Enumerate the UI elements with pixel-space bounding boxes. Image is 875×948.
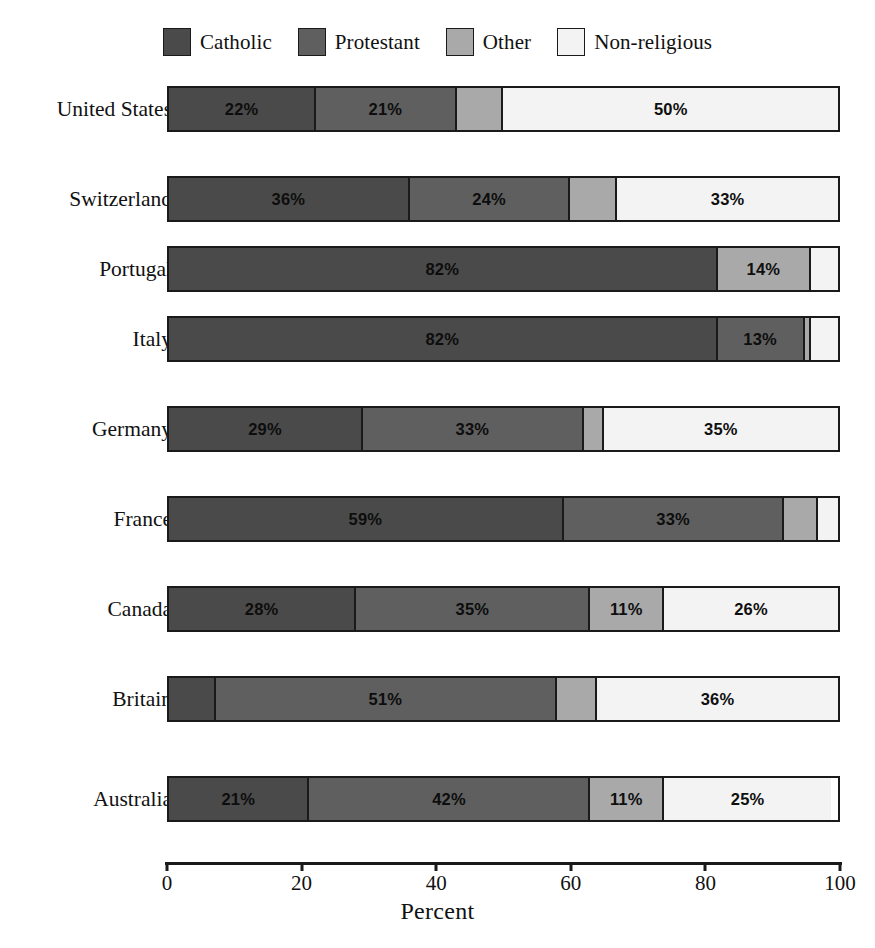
y-axis-tick-label: France <box>114 496 173 542</box>
chart-row: United States22%21%50% <box>0 86 875 132</box>
legend-swatch-icon <box>446 28 474 56</box>
bar-segment-non-religious: 36% <box>597 678 838 720</box>
legend-item-other: Other <box>446 28 531 56</box>
chart-row: Portugal82%14% <box>0 246 875 292</box>
plot-area: United States22%21%50%Switzerland36%24%3… <box>0 62 875 862</box>
x-axis-tick-label: 60 <box>560 873 581 894</box>
bar-segment-label: 82% <box>425 330 459 349</box>
x-axis-tick-label: 80 <box>695 873 716 894</box>
x-axis-tick-mark <box>704 862 707 871</box>
bar-segment-label: 33% <box>456 420 490 439</box>
bar-segment-other <box>570 178 617 220</box>
legend-item-label: Catholic <box>200 32 272 53</box>
bar-segment-label: 50% <box>654 100 688 119</box>
legend-swatch-icon <box>557 28 585 56</box>
bar-segment-label: 22% <box>225 100 259 119</box>
bar-segment-catholic: 28% <box>169 588 356 630</box>
chart-row: Italy82%13% <box>0 316 875 362</box>
bar-segment-other <box>784 498 817 540</box>
bar-segment-catholic: 36% <box>169 178 410 220</box>
bar-segment-other <box>805 318 812 360</box>
x-axis-tick-mark <box>839 862 842 871</box>
stacked-bar: 51%36% <box>167 676 840 722</box>
bar-segment-other <box>584 408 604 450</box>
bar-segment-label: 26% <box>734 600 768 619</box>
bar-segment-other: 14% <box>718 248 812 290</box>
stacked-bar: 36%24%33% <box>167 176 840 222</box>
stacked-bar: 21%42%11%25% <box>167 776 840 822</box>
x-axis-tick-label: 20 <box>291 873 312 894</box>
stacked-bar: 59%33% <box>167 496 840 542</box>
bar-segment-label: 59% <box>349 510 383 529</box>
bar-segment-catholic: 22% <box>169 88 316 130</box>
bar-segment-protestant: 13% <box>718 318 805 360</box>
bar-segment-protestant: 21% <box>316 88 456 130</box>
bar-segment-protestant: 24% <box>410 178 571 220</box>
bar-segment-label: 11% <box>610 790 643 809</box>
bar-segment-non-religious: 26% <box>664 588 838 630</box>
stacked-bar: 82%13% <box>167 316 840 362</box>
y-axis-tick-label: Britain <box>112 676 172 722</box>
bar-segment-catholic: 29% <box>169 408 363 450</box>
bar-segment-label: 36% <box>272 190 306 209</box>
y-axis-tick-label: Germany <box>92 406 172 452</box>
bar-segment-catholic: 21% <box>169 778 309 820</box>
bar-segment-protestant: 33% <box>363 408 584 450</box>
bar-segment-label: 25% <box>731 790 765 809</box>
y-axis-tick-label: Australia <box>93 776 172 822</box>
y-axis-tick-label: United States <box>57 86 172 132</box>
bar-segment-other: 11% <box>590 778 664 820</box>
bar-segment-label: 35% <box>704 420 738 439</box>
y-axis-tick-label: Portugal <box>99 246 172 292</box>
chart-row: Canada28%35%11%26% <box>0 586 875 632</box>
legend-item-label: Other <box>483 32 531 53</box>
bar-segment-catholic <box>169 678 216 720</box>
x-axis-tick-label: 40 <box>426 873 447 894</box>
legend-swatch-icon <box>298 28 326 56</box>
legend-swatch-icon <box>163 28 191 56</box>
chart-row: Australia21%42%11%25% <box>0 776 875 822</box>
x-axis-tick-mark <box>569 862 572 871</box>
legend-item-protestant: Protestant <box>298 28 420 56</box>
bar-segment-non-religious <box>811 318 838 360</box>
x-axis-tick-label: 100 <box>824 873 856 894</box>
bar-segment-protestant: 42% <box>309 778 590 820</box>
stacked-bar: 22%21%50% <box>167 86 840 132</box>
x-axis-title: Percent <box>0 898 875 925</box>
bar-segment-catholic: 82% <box>169 248 718 290</box>
legend-item-label: Non-religious <box>594 32 712 53</box>
bar-segment-catholic: 59% <box>169 498 564 540</box>
x-axis-line <box>165 862 842 865</box>
bar-segment-non-religious: 33% <box>617 178 838 220</box>
y-axis-tick-label: Canada <box>108 586 172 632</box>
bar-segment-other <box>457 88 504 130</box>
chart-row: Germany29%33%35% <box>0 406 875 452</box>
bar-segment-label: 51% <box>369 690 403 709</box>
bar-segment-catholic: 82% <box>169 318 718 360</box>
stacked-bar: 28%35%11%26% <box>167 586 840 632</box>
bar-segment-label: 13% <box>743 330 777 349</box>
legend-item-label: Protestant <box>335 32 420 53</box>
legend-item-non-religious: Non-religious <box>557 28 712 56</box>
bar-segment-label: 33% <box>656 510 690 529</box>
chart-legend: CatholicProtestantOtherNon-religious <box>0 28 875 56</box>
bar-segment-label: 11% <box>610 600 643 619</box>
y-axis-tick-label: Switzerland <box>69 176 172 222</box>
bar-segment-non-religious <box>818 498 838 540</box>
stacked-bar: 82%14% <box>167 246 840 292</box>
x-axis-tick-mark <box>435 862 438 871</box>
chart-row: Switzerland36%24%33% <box>0 176 875 222</box>
bar-segment-non-religious: 35% <box>604 408 838 450</box>
bar-segment-label: 14% <box>747 260 781 279</box>
bar-segment-protestant: 51% <box>216 678 557 720</box>
bar-segment-label: 42% <box>432 790 466 809</box>
bar-segment-label: 29% <box>248 420 282 439</box>
bar-segment-protestant: 33% <box>564 498 785 540</box>
bar-segment-label: 21% <box>369 100 403 119</box>
bar-segment-label: 28% <box>245 600 279 619</box>
chart-row: France59%33% <box>0 496 875 542</box>
bar-segment-protestant: 35% <box>356 588 590 630</box>
bar-segment-label: 24% <box>472 190 506 209</box>
bar-segment-non-religious: 25% <box>664 778 831 820</box>
legend-item-catholic: Catholic <box>163 28 272 56</box>
